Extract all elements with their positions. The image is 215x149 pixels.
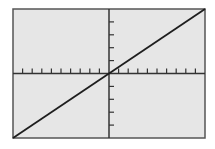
graph-plot [0,0,215,149]
